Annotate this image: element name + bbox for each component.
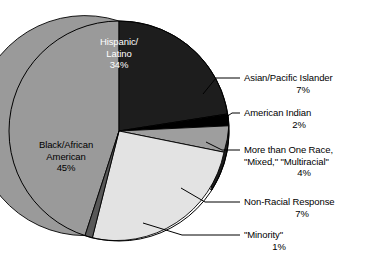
callout-minority-name: "Minority" [244,229,314,241]
callout-asian-pacific-islander-name: Asian/Pacific Islander [244,72,362,84]
callout-more-than-one-race-line1: More than One Race, [244,144,364,156]
callout-american-indian-name: American Indian [244,107,354,119]
callout-more-than-one-race: More than One Race, "Mixed," "Multiracia… [244,144,364,179]
slice-label-black-african-american: Black/African American 45% [6,139,126,174]
slice-label-hispanic-latino: Hispanic/ Latino 34% [59,36,179,71]
slice-label-hispanic-latino-line2: Latino [59,48,179,60]
callout-non-racial-response-value: 7% [244,208,360,220]
slice-label-black-african-american-line2: American [6,151,126,163]
callout-minority-value: 1% [244,241,314,253]
callout-american-indian: American Indian 2% [244,107,354,130]
slice-label-hispanic-latino-line1: Hispanic/ [59,36,179,48]
callout-non-racial-response-name: Non-Racial Response [244,196,360,208]
slice-label-hispanic-latino-value: 34% [59,59,179,71]
callout-asian-pacific-islander: Asian/Pacific Islander 7% [244,72,362,95]
callout-minority: "Minority" 1% [244,229,314,252]
slice-label-black-african-american-value: 45% [6,162,126,174]
slice-label-black-african-american-line1: Black/African [6,139,126,151]
callout-more-than-one-race-value: 4% [244,167,364,179]
callout-asian-pacific-islander-value: 7% [244,84,362,96]
pie-chart-figure: Hispanic/ Latino 34% Black/African Ameri… [0,0,365,261]
callout-american-indian-value: 2% [244,119,354,131]
pie-chart-graphic [0,0,365,261]
callout-non-racial-response: Non-Racial Response 7% [244,196,360,219]
callout-more-than-one-race-line2: "Mixed," "Multiracial" [244,156,364,168]
